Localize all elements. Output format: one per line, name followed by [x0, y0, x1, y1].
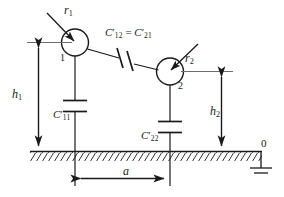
label-ground-node-0: 0 — [261, 138, 267, 149]
capacitor-c22-symbol — [158, 122, 182, 133]
capacitor-c12-symbol — [117, 48, 133, 71]
label-radius-r1: r1 — [64, 4, 73, 18]
label-separation-a: a — [123, 165, 129, 177]
label-capacitance-c12-equals-c21: C′12 = C′21 — [105, 27, 152, 40]
ground-plane-hatched — [30, 152, 262, 162]
circuit-diagram-figure: r1 r2 h1 h2 a 1 2 0 C′11 C′22 C′12 = C′2… — [0, 0, 284, 197]
label-node-1: 1 — [60, 53, 65, 63]
label-height-h2: h2 — [210, 105, 220, 119]
label-capacitance-c22: C′22 — [141, 130, 159, 143]
label-capacitance-c11: C′11 — [53, 109, 70, 122]
label-height-h1: h1 — [12, 88, 22, 102]
label-node-2: 2 — [178, 81, 183, 91]
label-radius-r2: r2 — [185, 52, 194, 66]
